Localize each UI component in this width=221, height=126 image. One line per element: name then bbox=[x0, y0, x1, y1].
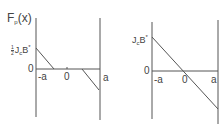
force-segment-left bbox=[36, 48, 54, 69]
half-fraction: 12 bbox=[11, 45, 14, 56]
left-x-tick-a: a bbox=[103, 73, 109, 83]
right-x-tick-a: a bbox=[211, 75, 217, 85]
left-zero-y-label: 0 bbox=[28, 64, 34, 74]
frac-den: 2 bbox=[11, 50, 14, 56]
force-segment-right bbox=[82, 69, 99, 90]
right-top-tick-label: JcB* bbox=[132, 32, 148, 48]
right-x-tick-zero: 0 bbox=[182, 75, 188, 85]
b-sup: * bbox=[28, 44, 30, 50]
b-sup: * bbox=[146, 34, 148, 40]
left-panel-plot bbox=[36, 18, 100, 120]
y-label-arg: (x) bbox=[18, 11, 32, 25]
right-x-tick-neg-a: -a bbox=[154, 75, 163, 85]
left-x-tick-zero: 0 bbox=[64, 72, 70, 82]
right-zero-y-label: 0 bbox=[144, 66, 150, 76]
right-panel-plot bbox=[152, 20, 218, 124]
y-axis-label: Fp(x) bbox=[7, 12, 32, 28]
force-line bbox=[152, 37, 218, 109]
left-x-tick-neg-a: -a bbox=[38, 72, 47, 82]
left-top-tick-label: 12JcB* bbox=[11, 42, 31, 58]
